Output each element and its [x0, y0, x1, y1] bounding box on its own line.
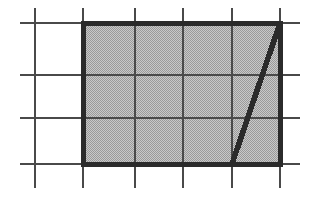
figure-canvas — [0, 0, 318, 206]
geometry-diagram — [0, 0, 318, 206]
shaded-rectangle — [83, 23, 280, 164]
